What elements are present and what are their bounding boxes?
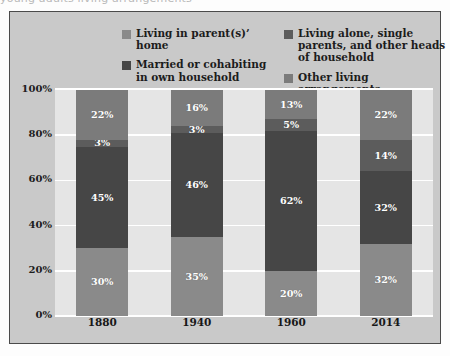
x-axis-tick-labels: 1880194019602014 [55, 316, 433, 336]
clipped-headline-text: young adults living arrangements [0, 0, 450, 4]
bar-segment[interactable]: 45% [76, 147, 128, 249]
bar-segment-value-label: 5% [283, 120, 299, 130]
x-axis-tick-label: 2014 [360, 316, 412, 328]
chart-legend: Living in parent(s)’ home Married or coh… [10, 17, 442, 75]
bar-segment[interactable]: 30% [76, 248, 128, 316]
y-axis-tick-label: 80% [29, 128, 52, 139]
bar-segment[interactable]: 22% [76, 90, 128, 140]
bar-segment-value-label: 62% [280, 196, 302, 206]
bar-segment-value-label: 32% [375, 203, 397, 213]
bar-segment-value-label: 3% [94, 138, 110, 148]
bar-segment[interactable]: 3% [171, 126, 223, 133]
bar-segment[interactable]: 16% [171, 90, 223, 126]
bar-group[interactable]: 20%62%5%13% [265, 90, 317, 316]
bar-segment-value-label: 16% [186, 103, 208, 113]
bar-segment[interactable]: 13% [265, 90, 317, 119]
plot-area: 30%45%3%22%35%46%3%16%20%62%5%13%32%32%1… [55, 88, 433, 316]
bar-segment[interactable]: 20% [265, 271, 317, 316]
chart-figure: young adults living arrangements Living … [0, 0, 450, 356]
y-axis-tick-label: 100% [22, 83, 52, 94]
bar-segment[interactable]: 62% [265, 131, 317, 271]
bar-segment-value-label: 30% [91, 277, 113, 287]
bar-segment-value-label: 35% [186, 272, 208, 282]
legend-item-living-alone-single-parents[interactable]: Living alone, single parents, and other … [284, 27, 450, 64]
bar-segment[interactable]: 5% [265, 119, 317, 130]
bar-segment-value-label: 14% [375, 151, 397, 161]
legend-swatch-icon [122, 30, 131, 39]
bar-series-container: 30%45%3%22%35%46%3%16%20%62%5%13%32%32%1… [55, 90, 433, 316]
chart-card: Living in parent(s)’ home Married or coh… [9, 11, 441, 344]
bar-segment-value-label: 45% [91, 193, 113, 203]
legend-swatch-icon [284, 30, 293, 39]
x-axis-tick-label: 1960 [265, 316, 317, 328]
x-axis-tick-label: 1880 [76, 316, 128, 328]
legend-swatch-icon [122, 61, 131, 70]
bar-segment[interactable]: 32% [360, 244, 412, 316]
bar-segment-value-label: 3% [189, 125, 205, 135]
bar-segment-value-label: 22% [91, 110, 113, 120]
bar-segment[interactable]: 14% [360, 140, 412, 172]
bar-group[interactable]: 35%46%3%16% [171, 90, 223, 316]
legend-item-living-in-parents-home[interactable]: Living in parent(s)’ home [122, 27, 272, 51]
bar-segment-value-label: 13% [280, 100, 302, 110]
bar-segment-value-label: 20% [280, 289, 302, 299]
bar-segment[interactable]: 3% [76, 140, 128, 147]
y-axis-tick-label: 20% [29, 263, 52, 274]
x-axis-tick-label: 1940 [171, 316, 223, 328]
y-axis-tick-label: 0% [36, 309, 52, 320]
bar-segment-value-label: 32% [375, 275, 397, 285]
plot-wrapper: 0%20%40%60%80%100% 30%45%3%22%35%46%3%16… [10, 76, 442, 345]
legend-item-label: Living in parent(s)’ home [136, 27, 272, 51]
bar-segment[interactable]: 46% [171, 133, 223, 237]
bar-group[interactable]: 30%45%3%22% [76, 90, 128, 316]
bar-segment[interactable]: 32% [360, 171, 412, 243]
y-axis-tick-label: 40% [29, 218, 52, 229]
y-axis-tick-label: 60% [29, 173, 52, 184]
bar-segment[interactable]: 22% [360, 90, 412, 140]
bar-group[interactable]: 32%32%14%22% [360, 90, 412, 316]
legend-item-label: Living alone, single parents, and other … [298, 27, 450, 64]
bar-segment-value-label: 46% [186, 180, 208, 190]
bar-segment[interactable]: 35% [171, 237, 223, 316]
bar-segment-value-label: 22% [375, 110, 397, 120]
y-axis-tick-labels: 0%20%40%60%80%100% [10, 88, 52, 314]
